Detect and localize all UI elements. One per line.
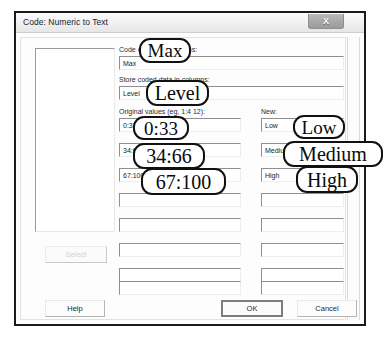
annotation-callout-0-33: 0:33: [133, 116, 189, 140]
original-value-input[interactable]: [119, 193, 241, 207]
new-value-input[interactable]: [261, 193, 344, 207]
original-value-input[interactable]: [119, 268, 241, 282]
original-value-input[interactable]: [119, 243, 241, 257]
select-button: Select: [45, 246, 107, 263]
cancel-button[interactable]: Cancel: [297, 300, 357, 317]
close-icon: X: [309, 14, 343, 28]
ok-button[interactable]: OK: [221, 300, 283, 317]
variable-list-box[interactable]: [35, 48, 115, 232]
new-value-input[interactable]: [261, 243, 344, 257]
new-value-input[interactable]: [261, 268, 344, 282]
page-title: Code: Numeric to Text: [23, 17, 108, 27]
original-value-input[interactable]: [119, 218, 241, 232]
title-bar[interactable]: Code: Numeric to Text X: [16, 13, 364, 33]
annotation-callout-level: Level: [146, 80, 209, 106]
annotation-callout-medium: Medium: [283, 141, 383, 167]
new-value-input[interactable]: [261, 218, 344, 232]
new-values-header: New:: [261, 108, 277, 115]
annotation-callout-max: Max: [139, 38, 191, 63]
help-button[interactable]: Help: [45, 300, 105, 317]
original-value-input[interactable]: [119, 281, 241, 295]
annotation-callout-67-100: 67:100: [141, 168, 226, 195]
annotation-callout-34-66: 34:66: [133, 143, 205, 169]
annotation-callout-high: High: [296, 166, 358, 193]
close-button[interactable]: X: [308, 14, 344, 29]
original-values-header: Original values (eg, 1:4 12):: [119, 108, 205, 115]
annotation-callout-low: Low: [293, 115, 345, 139]
new-value-input[interactable]: [261, 281, 344, 295]
select-button-label: Select: [66, 250, 87, 259]
